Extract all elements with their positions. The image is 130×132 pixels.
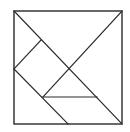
tangram-lines (14, 11, 122, 124)
tangram-diagram (0, 0, 130, 132)
square-top-left-edge-line (14, 40, 41, 69)
